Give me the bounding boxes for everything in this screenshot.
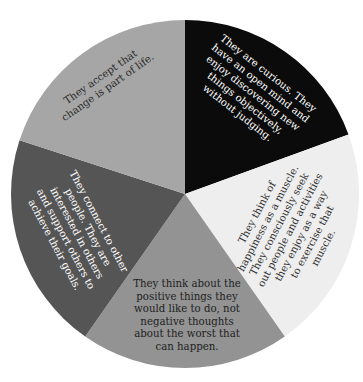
slice-label-line: about the worst that: [134, 328, 241, 339]
pie-chart: They are curious. Theyhave an open mind …: [0, 0, 363, 382]
slice-label-line: They think about the: [133, 278, 241, 289]
slice-label-line: positive things they: [136, 291, 238, 302]
slice-label-line: can happen.: [155, 341, 218, 352]
slice-label-line: would like to do, not: [134, 303, 241, 314]
slice-label-line: negative thoughts: [140, 316, 233, 327]
